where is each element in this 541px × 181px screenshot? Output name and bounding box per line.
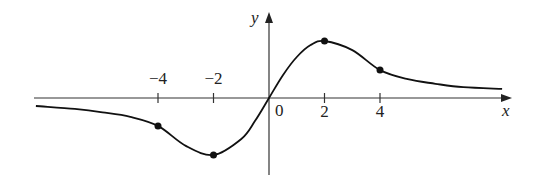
y-axis-arrow-icon xyxy=(265,12,273,23)
x-ticks: −4−224 xyxy=(149,69,385,121)
x-tick-label: −4 xyxy=(149,69,168,88)
x-tick-label: −2 xyxy=(204,69,222,88)
y-axis-label: y xyxy=(249,8,259,27)
marked-point xyxy=(377,67,384,74)
x-tick-label: 4 xyxy=(376,102,385,121)
marked-point xyxy=(210,152,217,159)
marked-point xyxy=(155,122,162,129)
origin-label: 0 xyxy=(275,101,284,120)
x-tick-label: 2 xyxy=(320,102,329,121)
marked-point xyxy=(321,38,328,45)
x-axis-label: x xyxy=(501,101,510,120)
function-graph: −4−224 y x 0 xyxy=(0,0,541,181)
